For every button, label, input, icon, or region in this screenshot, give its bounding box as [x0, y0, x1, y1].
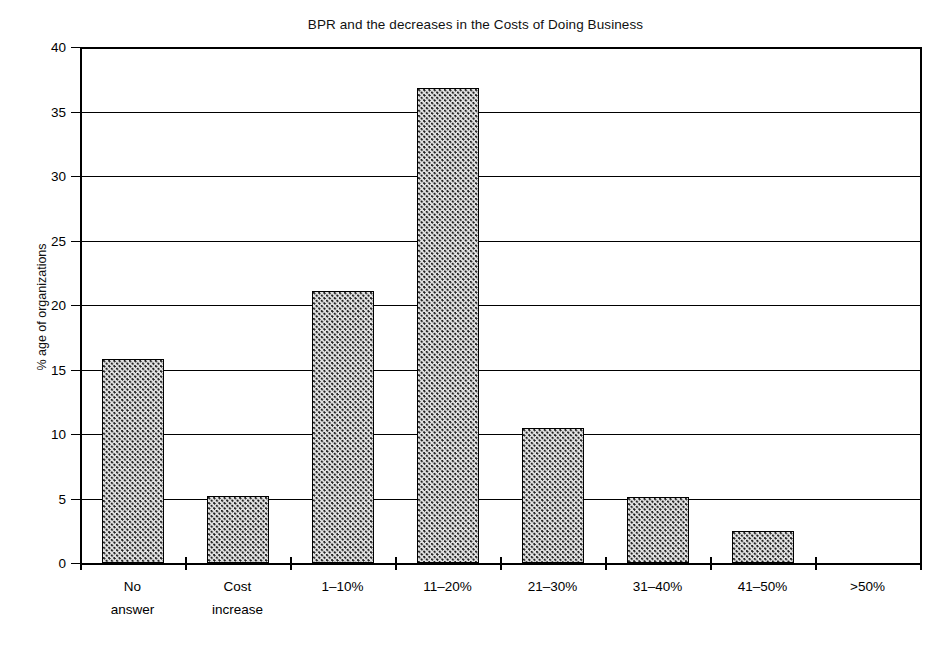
x-tick-label: 21–30% [500, 575, 605, 598]
y-tick-mark [71, 176, 80, 177]
x-tick-label-line: 21–30% [500, 575, 605, 598]
y-tick-label: 5 [58, 491, 66, 506]
bar[interactable] [312, 291, 374, 563]
x-tick-label: Noanswer [80, 575, 185, 621]
x-tick-label-line: increase [185, 598, 290, 621]
x-tick-label-line: 41–50% [710, 575, 815, 598]
y-tick-label: 20 [51, 298, 66, 313]
x-tick-mark [185, 557, 187, 570]
bar[interactable] [102, 359, 164, 563]
bar-chart: BPR and the decreases in the Costs of Do… [0, 0, 951, 647]
chart-title: BPR and the decreases in the Costs of Do… [0, 17, 951, 32]
x-tick-label: 1–10% [290, 575, 395, 598]
x-tick-mark [815, 557, 817, 570]
x-tick-label-line: >50% [815, 575, 920, 598]
plot-area: 0510152025303540 [80, 47, 920, 563]
y-tick-label: 35 [51, 104, 66, 119]
x-tick-mark [80, 557, 82, 570]
y-tick-label: 30 [51, 169, 66, 184]
plot-top-border [80, 47, 920, 49]
x-tick-mark [920, 557, 922, 570]
y-tick-label: 15 [51, 362, 66, 377]
gridline [80, 434, 920, 435]
y-tick-label: 0 [58, 556, 66, 571]
x-tick-mark [290, 557, 292, 570]
y-tick-mark [71, 563, 80, 564]
x-tick-mark [605, 557, 607, 570]
y-tick-mark [71, 47, 80, 48]
x-tick-label-line: No [80, 575, 185, 598]
y-tick-mark [71, 241, 80, 242]
bar[interactable] [627, 497, 689, 563]
y-tick-mark [71, 499, 80, 500]
x-tick-mark [500, 557, 502, 570]
y-axis-title: % age of organizations [35, 207, 49, 407]
bar[interactable] [732, 531, 794, 563]
x-tick-label-line: 11–20% [395, 575, 500, 598]
x-tick-label: 11–20% [395, 575, 500, 598]
y-tick-label: 40 [51, 40, 66, 55]
gridline [80, 305, 920, 306]
gridline [80, 176, 920, 177]
bar[interactable] [522, 428, 584, 563]
x-tick-label-line: Cost [185, 575, 290, 598]
x-tick-label-line: 1–10% [290, 575, 395, 598]
y-tick-mark [71, 305, 80, 306]
y-tick-mark [71, 370, 80, 371]
x-tick-label: >50% [815, 575, 920, 598]
bar[interactable] [417, 88, 479, 563]
gridline [80, 241, 920, 242]
x-tick-label-line: 31–40% [605, 575, 710, 598]
x-tick-label: 41–50% [710, 575, 815, 598]
y-tick-mark [71, 112, 80, 113]
x-tick-mark [395, 557, 397, 570]
gridline [80, 370, 920, 371]
x-tick-label: 31–40% [605, 575, 710, 598]
bar[interactable] [207, 496, 269, 563]
plot-right-border [920, 47, 922, 563]
y-tick-mark [71, 434, 80, 435]
gridline [80, 112, 920, 113]
x-tick-label-line: answer [80, 598, 185, 621]
x-tick-mark [710, 557, 712, 570]
x-tick-label: Costincrease [185, 575, 290, 621]
y-tick-label: 25 [51, 233, 66, 248]
y-tick-label: 10 [51, 427, 66, 442]
